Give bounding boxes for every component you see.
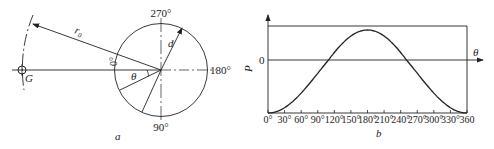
figure: 270° 180° 90° 0° r₀ d θ G a 0°30°60°90°1… [0,0,494,149]
caption-a: a [115,130,121,142]
label-0: 0° [108,57,119,66]
label-r0: r₀ [73,24,85,38]
x-tick-label: 0° [264,114,273,125]
label-d: d [168,37,174,49]
x-tick-labels: 0°30°60°90°120°150°180°210°240°270°300°3… [264,114,475,125]
theta-arc [147,70,149,77]
label-270: 270° [151,7,172,19]
x-axis-label: θ [473,46,479,58]
theta-line [120,70,161,90]
x-tick-label: 330° [441,114,460,125]
r0-arrow [33,24,161,70]
zero-label: 0 [259,54,265,66]
x-tick-label: 90° [311,114,325,125]
panel-b: 0°30°60°90°120°150°180°210°240°270°300°3… [242,15,483,139]
x-tick-label: 60° [294,114,308,125]
x-tick-label: 30° [278,114,292,125]
label-g: G [25,72,33,84]
x-tick-label: 360 [460,114,475,125]
d-arrow [161,28,182,70]
p-curve [268,30,467,113]
caption-b: b [376,127,382,139]
diameter-line [142,70,161,112]
label-180: 180° [210,64,231,76]
label-90: 90° [153,121,168,133]
panel-a: 270° 180° 90° 0° r₀ d θ G a [12,7,231,142]
y-axis-label: P [242,65,254,73]
label-theta: θ [131,70,137,82]
